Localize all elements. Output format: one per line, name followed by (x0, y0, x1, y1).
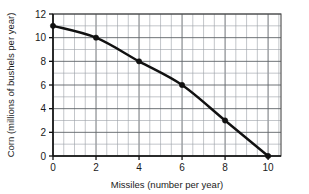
x-tick-label: 4 (136, 162, 142, 173)
y-axis-title: Corn (millions of bushels per year) (5, 13, 16, 158)
x-tick-label: 6 (179, 162, 185, 173)
x-axis-title: Missiles (number per year) (111, 179, 223, 190)
y-tick-label: 2 (40, 127, 46, 138)
y-tick-label: 4 (40, 103, 46, 114)
x-tick-label: 2 (93, 162, 99, 173)
y-axis-tick-labels: 024681012 (35, 9, 47, 162)
production-possibilities-chart: 0246810 024681012 Missiles (number per y… (0, 0, 309, 194)
x-axis-tick-labels: 0246810 (50, 162, 274, 173)
x-tick-label: 0 (50, 162, 56, 173)
data-point (179, 82, 184, 87)
chart-container: 0246810 024681012 Missiles (number per y… (0, 0, 309, 194)
data-point (265, 153, 270, 158)
x-tick-label: 10 (263, 162, 275, 173)
data-point (93, 35, 98, 40)
y-tick-label: 0 (40, 151, 46, 162)
y-tick-label: 12 (35, 9, 47, 20)
y-tick-label: 6 (40, 80, 46, 91)
data-point (50, 23, 55, 28)
data-point (222, 118, 227, 123)
y-tick-label: 10 (35, 32, 47, 43)
x-tick-label: 8 (222, 162, 228, 173)
y-tick-label: 8 (40, 56, 46, 67)
data-point (136, 59, 141, 64)
